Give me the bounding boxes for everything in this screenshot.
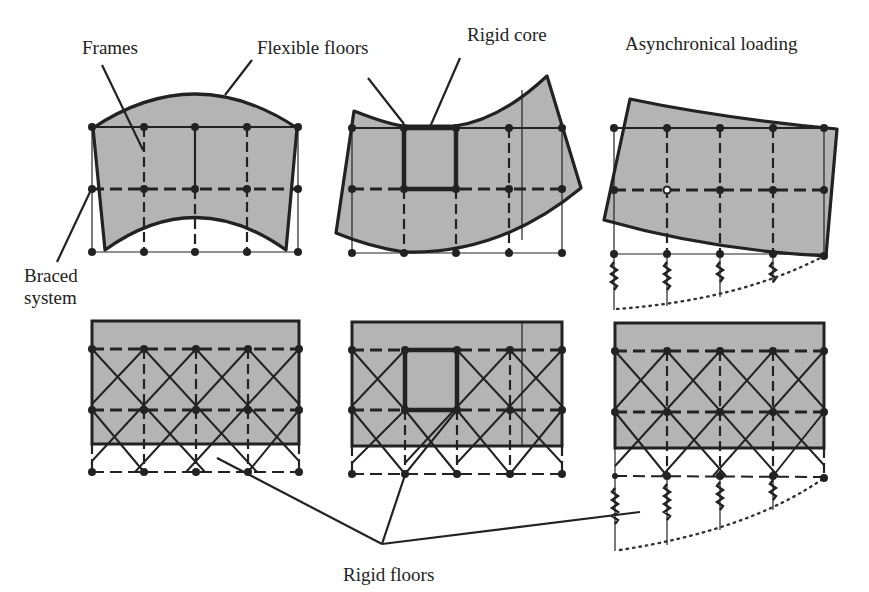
structural-diagram: Frames Flexible floors Rigid core Asynch…: [0, 0, 869, 592]
deformed-floor-plate: [336, 76, 581, 252]
leader-braced-system: [57, 192, 90, 262]
leader-rigid-floors-2: [382, 475, 405, 544]
panel-braced-rigid-core: [348, 322, 566, 478]
leader-rigid-floors-3: [382, 512, 640, 544]
label-braced-system-line2: system: [24, 287, 77, 308]
label-asynchronical-loading: Asynchronical loading: [625, 33, 798, 54]
label-flexible-floors: Flexible floors: [257, 37, 368, 58]
leader-rigid-core: [430, 58, 460, 127]
label-braced-system-line1: Braced: [24, 265, 78, 286]
label-frames: Frames: [82, 37, 138, 58]
panel-frames-asynchronical-loading: [604, 99, 837, 310]
label-rigid-core: Rigid core: [467, 24, 547, 45]
panel-braced-rigid-floor: [88, 321, 303, 476]
leader-flexible-floors: [225, 60, 252, 95]
panel-frames-flexible-floor: [88, 94, 302, 256]
label-rigid-floors: Rigid floors: [343, 564, 434, 585]
panel-frames-rigid-core: [336, 76, 581, 257]
spring-supports: [612, 448, 824, 551]
spring-supports: [611, 254, 824, 309]
panel-braced-asynchronical-loading: [611, 323, 828, 551]
